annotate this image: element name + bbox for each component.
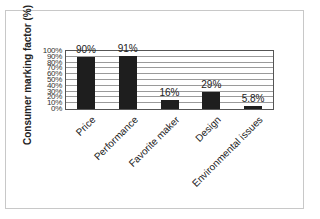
gridline [66, 85, 273, 86]
bar-environmental-issues [244, 106, 262, 109]
y-tick-label: 100% [32, 47, 62, 55]
gridline [66, 62, 273, 63]
value-label: 90% [66, 44, 106, 55]
gridline [66, 67, 273, 68]
value-label: 16% [150, 87, 190, 98]
gridline [66, 79, 273, 80]
bar-favorite-maker [161, 100, 179, 109]
bar-design [202, 92, 220, 109]
bar-price [77, 57, 95, 109]
gridline [66, 73, 273, 74]
gridline [66, 56, 273, 57]
value-label: 29% [191, 79, 231, 90]
value-label: 91% [108, 43, 148, 54]
value-label: 5.8% [233, 93, 273, 104]
bar-performance [119, 56, 137, 109]
